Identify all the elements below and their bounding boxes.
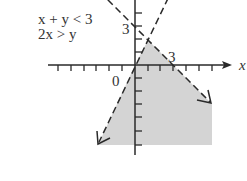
x-axis-label: x [239, 58, 246, 73]
origin-label: 0 [112, 74, 120, 89]
y-intercept-label: 3 [122, 22, 130, 37]
inequality-2: 2x > y [38, 27, 76, 42]
x-intercept-label: 3 [168, 50, 176, 65]
inequality-1: x + y < 3 [38, 12, 92, 27]
shaded-region [98, 40, 212, 145]
